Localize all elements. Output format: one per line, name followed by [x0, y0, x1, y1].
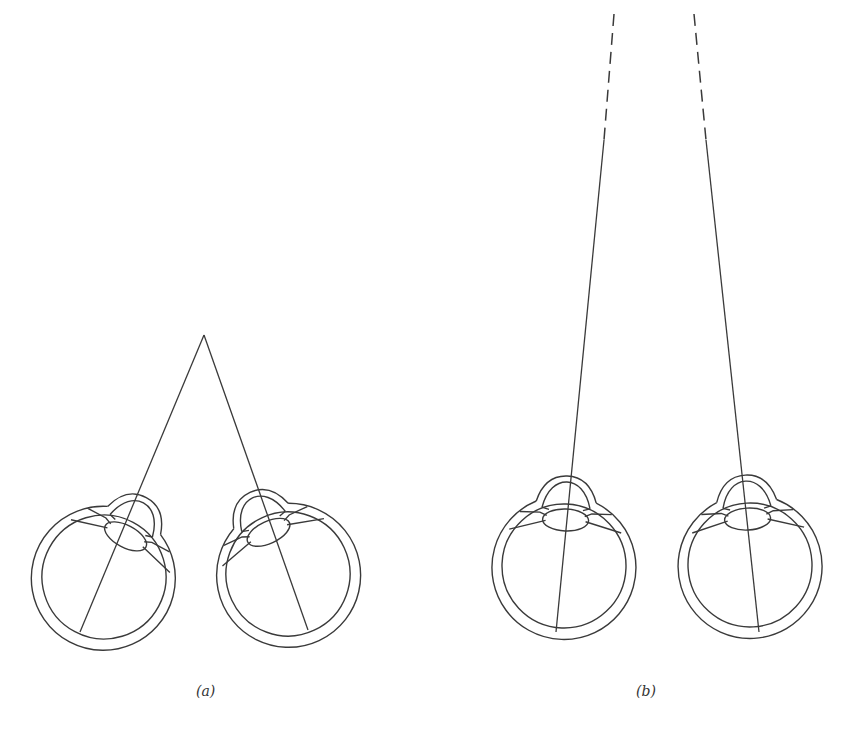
binocular-vision-diagram	[0, 0, 846, 734]
line-of-sight-right-a	[204, 335, 308, 630]
line-of-sight-right-b-dashed	[694, 14, 706, 140]
line-of-sight-right-b	[706, 140, 759, 632]
line-of-sight-left-b-dashed	[604, 14, 614, 140]
right-eye-a	[185, 462, 385, 671]
right-eye-b	[673, 471, 825, 642]
panel-a-label: (a)	[196, 683, 215, 699]
panel-b-label: (b)	[636, 683, 656, 699]
panel-a	[6, 335, 384, 676]
line-of-sight-left-a	[80, 335, 204, 632]
line-of-sight-left-b	[556, 140, 604, 632]
left-eye-b	[489, 474, 639, 642]
panel-b	[489, 14, 825, 642]
left-eye-a	[6, 464, 210, 676]
